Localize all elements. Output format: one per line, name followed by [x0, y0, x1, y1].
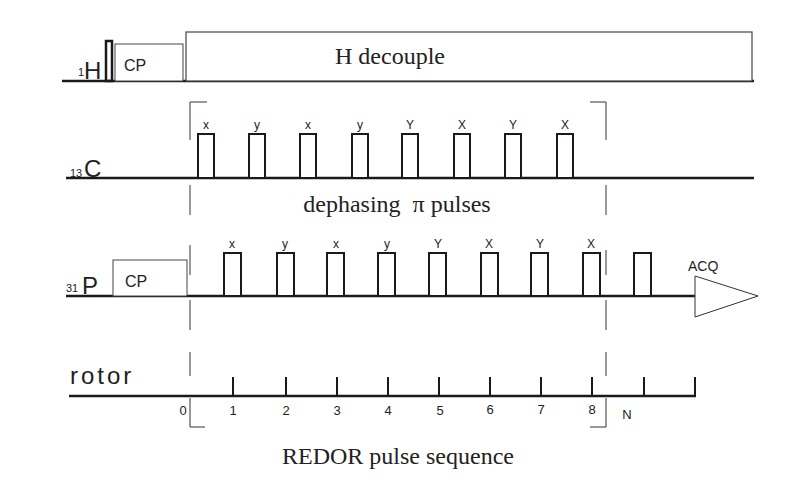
c13-pulse: X [454, 118, 470, 178]
c13-pulse: Y [505, 118, 521, 178]
h1-cp-label: CP [124, 57, 146, 74]
svg-text:x: x [229, 237, 235, 251]
p31-pulse: x [327, 237, 344, 296]
svg-text:Y: Y [434, 237, 442, 251]
svg-text:X: X [458, 118, 466, 132]
svg-text:Y: Y [536, 237, 544, 251]
svg-text:1: 1 [229, 403, 236, 418]
svg-text:y: y [384, 237, 390, 251]
c13-pulse: y [352, 118, 368, 178]
svg-text:6: 6 [486, 402, 493, 417]
diagram-title: REDOR pulse sequence [282, 443, 514, 469]
h1-channel: 1 H CP H decouple [62, 32, 754, 84]
svg-text:0: 0 [179, 403, 186, 418]
c13-channel: 13 C x y x y Y X Y X dephasing π pulses [66, 118, 754, 217]
p31-superscript: 31 [66, 282, 78, 294]
svg-text:X: X [485, 237, 493, 251]
p31-pulse: Y [429, 237, 446, 296]
rotor-tick-labels: 0 1 2 3 4 5 6 7 8 N [179, 402, 631, 422]
svg-text:5: 5 [436, 403, 443, 418]
h-decouple-box [186, 32, 752, 81]
svg-text:Y: Y [406, 118, 414, 132]
p31-pulse: X [583, 237, 600, 296]
svg-text:3: 3 [333, 403, 340, 418]
p31-cp-label: CP [125, 273, 147, 290]
p31-pulse: X [481, 237, 498, 296]
rotor-period-ticks [233, 377, 695, 396]
p31-pulse: Y [531, 237, 548, 296]
h-decouple-label: H decouple [335, 43, 445, 69]
c13-pulse: x [300, 118, 316, 178]
svg-text:Y: Y [509, 118, 517, 132]
diagram-svg: 1 H CP H decouple 13 C x y x y Y X Y X [0, 0, 797, 480]
c13-pulse: x [198, 118, 214, 178]
p31-channel: 31 P CP x y x y Y X Y X ACQ [66, 237, 758, 317]
svg-text:X: X [561, 118, 569, 132]
svg-text:4: 4 [384, 403, 391, 418]
svg-text:8: 8 [588, 402, 595, 417]
h1-90-pulse [106, 41, 112, 81]
svg-text:x: x [203, 118, 209, 132]
p31-pulse: x [224, 237, 241, 296]
p31-pulse: y [277, 237, 294, 296]
svg-text:N: N [622, 407, 631, 422]
acq-label: ACQ [688, 258, 718, 274]
svg-text:x: x [333, 237, 339, 251]
acquisition-triangle-icon [695, 276, 758, 317]
svg-text:x: x [305, 118, 311, 132]
c13-pulse: y [249, 118, 265, 178]
p31-pulse: y [378, 237, 395, 296]
rotor-label: rotor [70, 362, 134, 389]
c13-pulse: Y [402, 118, 418, 178]
svg-text:y: y [357, 118, 363, 132]
rotor-channel: rotor 0 1 2 3 4 5 6 7 8 N [69, 362, 696, 422]
svg-text:X: X [587, 237, 595, 251]
redor-pulse-diagram: 1 H CP H decouple 13 C x y x y Y X Y X [0, 0, 797, 480]
svg-text:2: 2 [282, 403, 289, 418]
c13-pulse: X [557, 118, 573, 178]
svg-text:y: y [254, 118, 260, 132]
dephasing-pulses-annotation: dephasing π pulses [303, 191, 490, 217]
p31-refocus-pulse [634, 253, 651, 296]
svg-text:y: y [282, 237, 288, 251]
svg-text:7: 7 [537, 402, 544, 417]
